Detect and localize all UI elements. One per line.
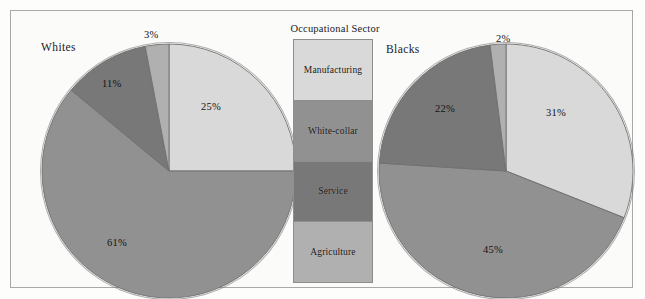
legend-item-service: Service [294, 162, 372, 223]
figure-frame: Whites 25% 61% 11% 3% Occupational Secto… [10, 10, 633, 288]
pie-svg-whites [41, 43, 297, 299]
legend-item-manufacturing: Manufacturing [294, 40, 372, 101]
legend-label-agriculture: Agriculture [310, 247, 355, 257]
legend-label-manufacturing: Manufacturing [304, 65, 362, 75]
slice-label-blacks-agriculture: 2% [496, 33, 510, 44]
pie-graphic-blacks [378, 43, 634, 299]
pie-svg-blacks [378, 43, 634, 299]
pie-title-whites: Whites [41, 41, 76, 53]
pie-chart-whites: Whites 25% 61% 11% 3% [29, 29, 293, 293]
legend-title: Occupational Sector [289, 23, 381, 34]
slice-label-whites-agriculture: 3% [144, 29, 158, 40]
pie-chart-blacks: Blacks 31% 45% 22% 2% [378, 29, 642, 293]
slice-label-whites-manufacturing: 25% [201, 101, 221, 112]
pie-title-blacks: Blacks [386, 43, 420, 55]
slice-label-blacks-service: 22% [435, 103, 455, 114]
slice-label-blacks-manufacturing: 31% [546, 107, 566, 118]
legend-box: Manufacturing White-collar Service Agric… [293, 39, 373, 283]
slice-label-whites-service: 11% [102, 78, 121, 89]
legend-label-service: Service [318, 186, 348, 196]
legend: Occupational Sector Manufacturing White-… [293, 39, 373, 283]
slice-label-whites-white-collar: 61% [107, 237, 127, 248]
pie-slice [169, 44, 296, 171]
slice-label-blacks-white-collar: 45% [483, 244, 503, 255]
legend-item-white-collar: White-collar [294, 101, 372, 162]
pie-graphic-whites [41, 43, 297, 299]
legend-label-white-collar: White-collar [308, 126, 358, 136]
legend-item-agriculture: Agriculture [294, 222, 372, 282]
figure-page: Whites 25% 61% 11% 3% Occupational Secto… [0, 0, 645, 299]
